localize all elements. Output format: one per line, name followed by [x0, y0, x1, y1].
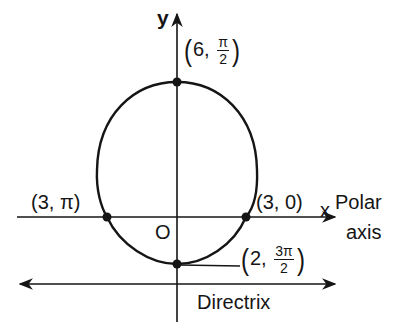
- close-paren: ): [297, 245, 305, 275]
- theta-denominator: 2: [219, 51, 227, 66]
- point-right: [242, 213, 251, 222]
- theta-denominator: 2: [280, 260, 288, 275]
- open-paren: (: [241, 245, 249, 275]
- x-axis-label: x: [320, 200, 330, 220]
- point-left: [103, 213, 112, 222]
- bottom-point-leader: [180, 265, 240, 266]
- theta-numerator: π: [217, 35, 229, 51]
- point-bottom-label: (2, 3π 2 ): [240, 244, 306, 275]
- point-top-label: (6, π 2 ): [183, 35, 241, 66]
- point-left-label: (3, π): [31, 192, 80, 212]
- polar-axis-label-line1: Polar: [335, 192, 382, 212]
- polar-axis-label-line2: axis: [346, 222, 382, 242]
- point-bottom-r: 2,: [250, 247, 267, 269]
- close-paren: ): [232, 36, 240, 66]
- open-paren: (: [184, 36, 192, 66]
- y-axis-label: y: [157, 7, 169, 28]
- point-top-theta: π 2: [217, 35, 229, 66]
- theta-numerator: 3π: [274, 244, 293, 260]
- point-top: [173, 78, 182, 87]
- point-top-r: 6,: [193, 38, 210, 60]
- directrix-label: Directrix: [197, 292, 270, 312]
- origin-label: O: [155, 222, 171, 242]
- point-bottom: [173, 260, 182, 269]
- point-right-label: (3, 0): [256, 192, 303, 212]
- point-bottom-theta: 3π 2: [274, 244, 293, 275]
